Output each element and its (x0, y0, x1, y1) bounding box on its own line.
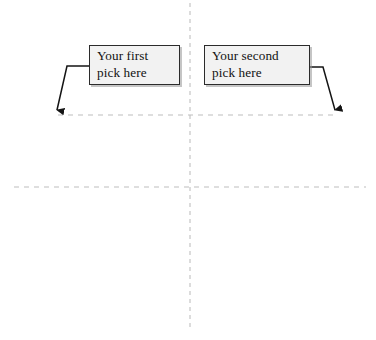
callout-box-second-pick[interactable]: Your second pick here (204, 45, 310, 85)
callout-second-line2: pick here (212, 65, 302, 82)
diagram-canvas: Your first pick here Your second pick he… (0, 0, 376, 340)
callout-box-first-pick[interactable]: Your first pick here (89, 45, 180, 85)
callout-first-line2: pick here (97, 65, 172, 82)
callout-second-line1: Your second (212, 48, 302, 65)
callout-first-line1: Your first (97, 48, 172, 65)
gridline-layer (0, 0, 376, 340)
